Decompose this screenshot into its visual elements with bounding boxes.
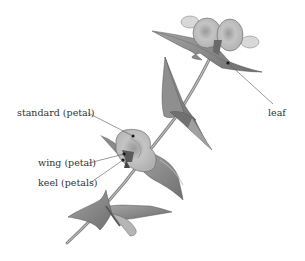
plant-illustration	[0, 0, 305, 261]
middle-flower	[100, 129, 156, 171]
leader-standard	[88, 113, 133, 136]
label-wing-petal: wing (petal)	[38, 157, 96, 168]
label-standard-petal: standard (petal)	[17, 107, 95, 118]
label-leaf: leaf	[268, 107, 286, 118]
botanical-diagram: standard (petal) wing (petal) keel (peta…	[0, 0, 305, 261]
leader-lines	[88, 63, 273, 183]
label-keel-petals: keel (petals)	[38, 177, 98, 188]
